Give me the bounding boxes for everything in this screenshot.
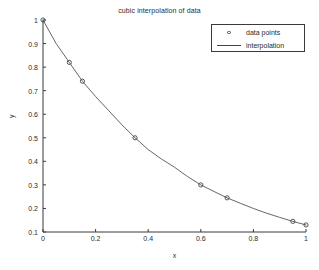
circle-marker-icon bbox=[212, 31, 246, 35]
legend-label: interpolation bbox=[246, 42, 284, 49]
chart-legend: data points interpolation bbox=[211, 24, 305, 52]
legend-item-data-points[interactable]: data points bbox=[212, 26, 304, 39]
figure-canvas: cubic interpolation of data y x 0.10.20.… bbox=[0, 0, 319, 270]
legend-label: data points bbox=[246, 29, 280, 36]
line-marker-icon bbox=[212, 45, 246, 46]
legend-item-interpolation[interactable]: interpolation bbox=[212, 39, 304, 52]
